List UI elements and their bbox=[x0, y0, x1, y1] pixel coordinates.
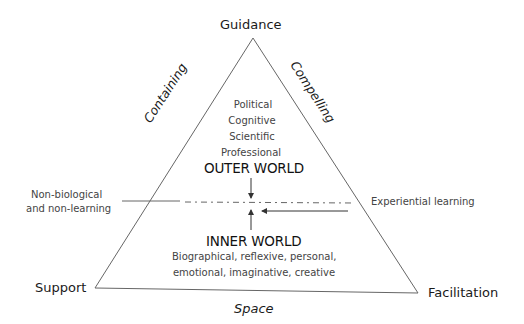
outer-world-title: OUTER WORLD bbox=[204, 162, 304, 176]
annotation-experiential-learning: Experiential learning bbox=[371, 197, 475, 207]
outer-item-scientific: Scientific bbox=[225, 132, 279, 142]
outer-item-cognitive: Cognitive bbox=[225, 116, 279, 126]
annotation-non-biological: Non-biological bbox=[31, 190, 102, 200]
boundary-dashed-line bbox=[185, 202, 354, 203]
inner-description-line2: emotional, imaginative, creative bbox=[172, 268, 336, 278]
inner-description-line1: Biographical, reflexive, personal, bbox=[172, 252, 336, 262]
outer-item-political: Political bbox=[228, 100, 278, 110]
side-space: Space bbox=[234, 302, 274, 315]
corner-guidance: Guidance bbox=[220, 18, 282, 31]
outer-item-professional: Professional bbox=[218, 148, 284, 158]
inner-world-title: INNER WORLD bbox=[206, 235, 301, 249]
annotation-non-learning: and non-learning bbox=[26, 204, 111, 214]
corner-support: Support bbox=[35, 281, 86, 294]
corner-facilitation: Facilitation bbox=[428, 286, 498, 299]
